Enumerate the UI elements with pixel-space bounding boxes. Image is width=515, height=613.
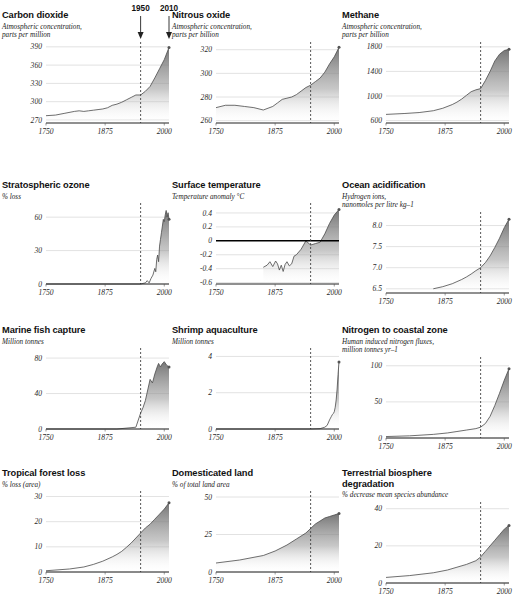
area-fill (386, 368, 509, 437)
y-tick-label: 260 (201, 116, 213, 125)
x-tick-label: 1750 (378, 442, 393, 451)
y-tick-label: 4 (208, 352, 212, 361)
y-tick-label: 50 (204, 493, 212, 502)
x-tick-label: 2000 (157, 127, 172, 136)
y-tick-label: 60 (34, 213, 42, 222)
series-endpoint (338, 46, 341, 49)
y-tick-label: 30 (33, 492, 42, 501)
chart-panel-tropical-forest-loss: Tropical forest loss% loss (area)0102030… (2, 468, 172, 584)
chart-panel-methane: MethaneAtmospheric concentration, parts … (342, 10, 512, 135)
y-tick-label: 270 (31, 115, 43, 124)
x-tick-label: 2000 (157, 576, 172, 585)
chart-subtitle-stratospheric-ozone: % loss (2, 193, 172, 202)
series-endpoint (168, 501, 171, 504)
chart-title-marine-fish-capture: Marine fish capture (2, 325, 172, 336)
series-endpoint (168, 46, 171, 49)
x-tick-label: 2000 (497, 127, 512, 136)
x-tick-label: 1875 (268, 433, 283, 442)
y-tick-label: 40 (374, 504, 382, 513)
x-tick-label: 2000 (327, 576, 342, 585)
x-tick-label: 1875 (438, 442, 453, 451)
x-tick-label: 2000 (327, 433, 342, 442)
series-endpoint (508, 524, 511, 527)
chart-title-nitrous-oxide: Nitrous oxide (172, 10, 342, 21)
x-tick-label: 1750 (38, 576, 53, 585)
area-fill (386, 525, 509, 583)
y-tick-label: 50 (374, 397, 382, 406)
x-tick-label: 1750 (38, 288, 53, 297)
y-tick-label: 8.0 (373, 221, 383, 230)
chart-subtitle-nitrogen-to-coastal-zone: Human induced nitrogen fluxes, million t… (342, 338, 512, 355)
chart-subtitle-domesticated-land: % of total land area (172, 481, 342, 490)
annotation-label-1950: 1950 (132, 4, 151, 13)
y-tick-label: 300 (30, 97, 43, 106)
x-tick-label: 1750 (38, 127, 53, 136)
area-fill (386, 49, 509, 123)
chart-subtitle-methane: Atmospheric concentration, parts per bil… (342, 23, 512, 40)
chart-title-methane: Methane (342, 10, 512, 21)
x-tick-label: 1750 (38, 433, 53, 442)
area-fill (216, 47, 339, 123)
y-tick-label: 7.5 (373, 242, 383, 251)
y-tick-label: 20 (374, 541, 382, 550)
x-tick-label: 1875 (98, 576, 113, 585)
x-tick-label: 1875 (438, 297, 453, 306)
annotation-arrow-head (138, 32, 144, 39)
y-tick-label: 7.0 (373, 263, 383, 272)
series-endpoint (168, 366, 171, 369)
chart-subtitle-marine-fish-capture: Million tonnes (2, 338, 172, 347)
y-tick-label: -0.2 (200, 250, 212, 259)
chart-plot-domesticated-land: 02550175018752000 (172, 490, 342, 584)
chart-plot-nitrous-oxide: 260280300320175018752000 (172, 41, 342, 135)
x-tick-label: 2000 (497, 587, 512, 596)
x-tick-label: 1750 (208, 433, 223, 442)
chart-panel-nitrous-oxide: Nitrous oxideAtmospheric concentration, … (172, 10, 342, 135)
chart-plot-surface-temperature: -0.6-0.4-0.200.20.4175018752000 (172, 202, 342, 296)
x-tick-label: 1750 (378, 587, 393, 596)
y-tick-label: -0.4 (200, 264, 212, 273)
y-tick-label: 1400 (367, 67, 382, 76)
area-fill (216, 362, 339, 429)
x-tick-label: 2000 (327, 288, 342, 297)
series-endpoint (338, 360, 341, 363)
chart-title-surface-temperature: Surface temperature (172, 180, 342, 191)
chart-subtitle-surface-temperature: Temperature anomaly °C (172, 193, 342, 202)
chart-panel-carbon-dioxide: Carbon dioxideAtmospheric concentration,… (2, 10, 172, 135)
x-tick-label: 1875 (268, 288, 283, 297)
chart-plot-tropical-forest-loss: 0102030175018752000 (2, 490, 172, 584)
chart-plot-stratospheric-ozone: 03060175018752000 (2, 202, 172, 296)
chart-subtitle-shrimp-aquaculture: Million tonnes (172, 338, 342, 347)
series-endpoint (168, 218, 171, 221)
y-tick-label: 300 (200, 69, 213, 78)
chart-plot-shrimp-aquaculture: 024175018752000 (172, 347, 342, 441)
y-tick-label: 320 (200, 45, 213, 54)
chart-plot-ocean-acidification: 6.57.07.58.0175018752000 (342, 211, 512, 305)
series-endpoint (508, 367, 511, 370)
y-tick-label: 1000 (367, 91, 382, 100)
x-tick-label: 1875 (98, 288, 113, 297)
x-tick-label: 1750 (378, 127, 393, 136)
area-fill (46, 211, 169, 285)
chart-subtitle-terrestrial-biosphere-degradation: % decrease mean species abundance (342, 491, 512, 500)
x-tick-label: 1875 (98, 433, 113, 442)
series-line (216, 362, 339, 429)
series-endpoint (338, 512, 341, 515)
y-tick-label: 10 (34, 543, 42, 552)
x-tick-label: 1750 (378, 297, 393, 306)
chart-subtitle-tropical-forest-loss: % loss (area) (2, 481, 172, 490)
y-tick-label: 360 (30, 60, 43, 69)
chart-panel-surface-temperature: Surface temperatureTemperature anomaly °… (172, 180, 342, 296)
y-tick-label: 80 (34, 354, 42, 363)
area-fill (263, 210, 339, 285)
x-tick-label: 2000 (497, 297, 512, 306)
series-endpoint (338, 208, 341, 211)
y-tick-label: 1800 (367, 42, 382, 51)
y-tick-label: 600 (371, 116, 383, 125)
chart-panel-stratospheric-ozone: Stratospheric ozone% loss030601750187520… (2, 180, 172, 296)
area-fill (216, 514, 339, 573)
chart-title-ocean-acidification: Ocean acidification (342, 180, 512, 191)
area-fill (46, 362, 169, 429)
chart-title-shrimp-aquaculture: Shrimp aquaculture (172, 325, 342, 336)
chart-title-stratospheric-ozone: Stratospheric ozone (2, 180, 172, 191)
series-endpoint (508, 217, 511, 220)
